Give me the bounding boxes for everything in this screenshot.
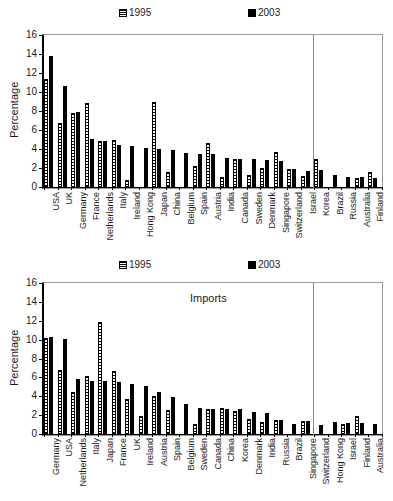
- bar-1995: [152, 396, 156, 434]
- x-tick-label: UK: [133, 438, 142, 451]
- y-tick-label: 12: [17, 316, 37, 326]
- x-tick: [112, 187, 113, 190]
- bar-group: [58, 35, 72, 187]
- bar-2003: [225, 158, 229, 187]
- bar-group: [193, 283, 207, 434]
- bar-2003: [157, 392, 161, 434]
- bar-group: [341, 283, 355, 434]
- y-tick-label: 14: [17, 297, 37, 307]
- bar-group: [233, 283, 247, 434]
- legend-swatch-2003-icon: [248, 9, 256, 17]
- bar-group: [166, 283, 180, 434]
- bar-1995: [85, 103, 89, 187]
- x-tick: [287, 434, 288, 437]
- x-tick-label: Sweden: [255, 192, 264, 225]
- bar-group: [193, 35, 207, 187]
- bar-1995: [71, 113, 75, 187]
- bar-2003: [171, 150, 175, 187]
- legend-entry-1995: 1995: [119, 260, 151, 270]
- bar-group: [220, 283, 234, 434]
- bar-1995: [220, 408, 224, 434]
- bar-group: [58, 283, 72, 434]
- bar-1995: [260, 168, 264, 187]
- x-tick: [98, 187, 99, 190]
- bar-group: [368, 283, 382, 434]
- x-tick: [341, 434, 342, 437]
- x-tick-label: Netherlands: [79, 438, 88, 487]
- bar-group: [112, 283, 126, 434]
- bar-2003: [144, 386, 148, 434]
- x-tick: [301, 187, 302, 190]
- bar-1995: [341, 424, 345, 434]
- bar-group: [98, 35, 112, 187]
- x-tick-label: USA: [52, 192, 61, 211]
- bar-2003: [49, 337, 53, 434]
- y-tick: [39, 377, 43, 378]
- bar-1995: [301, 176, 305, 187]
- x-tick-label: France: [119, 438, 128, 466]
- x-tick-label: UK: [65, 192, 74, 205]
- x-tick-label: Germany: [79, 192, 88, 229]
- x-tick: [314, 434, 315, 437]
- x-tick: [274, 434, 275, 437]
- bar-group: [287, 283, 301, 434]
- bar-group: [260, 283, 274, 434]
- bar-group: [85, 35, 99, 187]
- x-tick: [233, 434, 234, 437]
- bar-2003: [333, 175, 337, 187]
- bar-1995: [112, 140, 116, 187]
- bar-2003: [103, 141, 107, 187]
- legend-label-2003: 2003: [258, 8, 280, 18]
- bar-1995: [44, 79, 48, 187]
- x-tick-label: Russia: [349, 192, 358, 220]
- x-tick: [152, 434, 153, 437]
- x-tick: [166, 434, 167, 437]
- figure-container: 1995 2003 Percentage Exports 02468101214…: [0, 0, 393, 501]
- bar-group: [233, 35, 247, 187]
- y-tick: [39, 340, 43, 341]
- y-axis-title-imports: Percentage: [8, 330, 20, 386]
- y-tick: [39, 168, 43, 169]
- bar-group: [355, 35, 369, 187]
- x-tick: [382, 187, 383, 190]
- bar-group: [328, 35, 342, 187]
- y-tick-label: 16: [17, 278, 37, 288]
- bar-group: [44, 283, 58, 434]
- x-tick: [220, 434, 221, 437]
- bar-2003: [238, 159, 242, 188]
- bar-2003: [225, 409, 229, 434]
- x-tick: [112, 434, 113, 437]
- bar-group: [314, 283, 328, 434]
- bar-group: [260, 35, 274, 187]
- y-tick-label: 6: [17, 372, 37, 382]
- x-tick: [287, 187, 288, 190]
- bar-1995: [85, 376, 89, 435]
- y-tick: [39, 92, 43, 93]
- bar-group: [206, 35, 220, 187]
- legend-swatch-2003-icon: [248, 261, 256, 269]
- bar-group: [112, 35, 126, 187]
- bar-1995: [355, 178, 359, 187]
- x-tick: [139, 434, 140, 437]
- bar-group: [247, 283, 261, 434]
- x-tick-label: Hong Kong: [336, 438, 345, 483]
- y-tick: [39, 415, 43, 416]
- bar-1995: [98, 141, 102, 187]
- bar-group: [166, 35, 180, 187]
- x-tick-label: Austria: [160, 438, 169, 466]
- bar-group: [206, 283, 220, 434]
- x-tick-label: Belgium: [187, 438, 196, 471]
- bar-1995: [71, 392, 75, 434]
- x-tick-label: Singapore: [282, 192, 291, 233]
- x-tick-label: Spain: [200, 192, 209, 215]
- bar-group-exports: [44, 35, 382, 187]
- x-tick-label: Brazil: [295, 438, 304, 461]
- x-tick-label: Spain: [173, 438, 182, 461]
- x-tick: [382, 434, 383, 437]
- bar-2003: [319, 170, 323, 187]
- x-tick: [71, 434, 72, 437]
- y-tick-label: 8: [17, 354, 37, 364]
- x-tick-label: France: [92, 192, 101, 220]
- x-tick-label: China: [227, 438, 236, 462]
- bar-group: [328, 283, 342, 434]
